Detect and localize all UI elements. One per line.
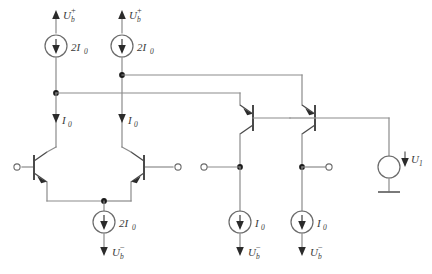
terminal-mid-node[interactable] bbox=[201, 164, 207, 170]
output-branch-left bbox=[207, 164, 251, 256]
q3-collector-slant bbox=[240, 125, 253, 134]
q3-emitter-arrow-icon bbox=[243, 108, 252, 115]
transistor-q2-npn bbox=[104, 147, 173, 201]
transistor-q4-pnp bbox=[290, 105, 389, 167]
label-supply-neg-left: U b − bbox=[248, 242, 261, 261]
label-2i0-top-right-base: 2I bbox=[137, 41, 148, 53]
label-current-i0-bottom-right: I 0 bbox=[316, 217, 327, 232]
current-arrow-i0-right-icon bbox=[118, 114, 126, 123]
label-i0-bottom-left-base: I bbox=[254, 217, 260, 229]
voltage-source-circle-icon bbox=[378, 156, 400, 178]
arrow-supply-pos-left-icon bbox=[52, 10, 60, 19]
label-supply-neg-right: U b − bbox=[310, 242, 323, 261]
q1-collector-slant bbox=[34, 152, 47, 161]
cross-coupling-wires bbox=[56, 75, 302, 105]
current-source-top-right-arrow-icon bbox=[118, 45, 126, 54]
label-supply-neg-left-sup: − bbox=[256, 242, 261, 252]
label-current-i0-mid-left: I 0 bbox=[61, 114, 72, 129]
arrow-supply-neg-right-icon bbox=[298, 247, 306, 256]
label-supply-neg-tail-sub: b bbox=[120, 252, 124, 261]
label-supply-pos-left-sup: + bbox=[71, 5, 76, 15]
q2-collector-slant bbox=[131, 152, 144, 161]
voltage-source-u1 bbox=[378, 118, 409, 192]
schematic-canvas: U b + U b + 2I 0 2I 0 I 0 I 0 bbox=[0, 0, 432, 274]
label-supply-neg-right-sup: − bbox=[318, 242, 323, 252]
label-supply-neg-tail: U b − bbox=[112, 242, 125, 261]
arrow-supply-neg-tail-icon bbox=[100, 247, 108, 256]
current-arrow-i0-left-icon bbox=[52, 114, 60, 123]
label-i0-bottom-left-sub: 0 bbox=[261, 223, 265, 232]
label-2i0-tail-base: 2I bbox=[119, 217, 130, 229]
transistor-q3-pnp bbox=[240, 105, 290, 167]
arrow-supply-neg-left-icon bbox=[236, 247, 244, 256]
label-supply-pos-right: U b + bbox=[129, 5, 142, 24]
terminal-input-noninverting[interactable] bbox=[175, 164, 181, 170]
q2-emitter-arrow-icon bbox=[132, 176, 141, 183]
label-supply-pos-right-sup: + bbox=[137, 5, 142, 15]
label-supply-neg-left-sub: b bbox=[256, 252, 260, 261]
label-2i0-top-left-base: 2I bbox=[71, 41, 82, 53]
u1-arrow-icon bbox=[401, 158, 409, 167]
terminal-input-inverting[interactable] bbox=[14, 164, 20, 170]
supply-branch-right bbox=[111, 10, 133, 147]
label-current-2i0-top-right: 2I 0 bbox=[137, 41, 154, 56]
label-u1-sub: 1 bbox=[419, 159, 423, 168]
label-i0-mid-left-sub: 0 bbox=[68, 120, 72, 129]
label-2i0-top-left-sub: 0 bbox=[84, 47, 88, 56]
label-supply-pos-left-sub: b bbox=[71, 15, 75, 24]
q1-emitter-arrow-icon bbox=[37, 176, 46, 183]
q4-emitter-arrow-icon bbox=[305, 108, 314, 115]
label-supply-pos-left: U b + bbox=[63, 5, 76, 24]
current-source-tail-arrow-icon bbox=[100, 221, 108, 230]
supply-branch-left bbox=[45, 10, 67, 147]
terminal-output[interactable] bbox=[326, 164, 332, 170]
current-source-top-left-arrow-icon bbox=[52, 45, 60, 54]
label-i0-mid-right-sub: 0 bbox=[134, 120, 138, 129]
q4-collector-slant bbox=[302, 125, 315, 134]
label-current-2i0-tail: 2I 0 bbox=[119, 217, 136, 232]
label-voltage-source-u1: U 1 bbox=[411, 153, 423, 168]
label-supply-pos-right-sub: b bbox=[137, 15, 141, 24]
label-current-i0-bottom-left: I 0 bbox=[254, 217, 265, 232]
label-2i0-top-right-sub: 0 bbox=[150, 47, 154, 56]
current-source-bottom-right-arrow-icon bbox=[298, 221, 306, 230]
q2-collector-join bbox=[122, 147, 131, 152]
label-current-i0-mid-right: I 0 bbox=[127, 114, 138, 129]
label-i0-mid-left-base: I bbox=[61, 114, 67, 126]
q1-collector-join bbox=[47, 147, 56, 152]
label-supply-neg-right-sub: b bbox=[318, 252, 322, 261]
label-i0-bottom-right-base: I bbox=[316, 217, 322, 229]
transistor-q1-npn bbox=[22, 147, 104, 201]
label-i0-mid-right-base: I bbox=[127, 114, 133, 126]
label-i0-bottom-right-sub: 0 bbox=[323, 223, 327, 232]
circuit-schematic: U b + U b + 2I 0 2I 0 I 0 I 0 bbox=[0, 0, 432, 274]
label-current-2i0-top-left: 2I 0 bbox=[71, 41, 88, 56]
label-supply-neg-tail-sup: − bbox=[120, 242, 125, 252]
label-2i0-tail-sub: 0 bbox=[132, 223, 136, 232]
arrow-supply-pos-right-icon bbox=[118, 10, 126, 19]
current-source-bottom-left-arrow-icon bbox=[236, 221, 244, 230]
